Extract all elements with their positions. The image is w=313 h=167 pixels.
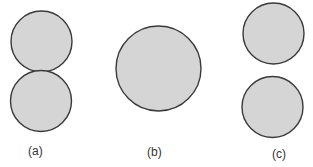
panel-a-label: (a) <box>28 145 43 157</box>
panel-c-circles <box>242 3 304 138</box>
circles-diagram <box>0 0 313 167</box>
panel-b-circle <box>116 26 201 111</box>
panel-b-label: (b) <box>147 146 162 158</box>
panel-a-circles <box>11 11 73 132</box>
panel-c-bottom-circle <box>242 77 303 138</box>
panel-b-circles <box>116 26 201 111</box>
panel-c-top-circle <box>243 3 304 64</box>
panel-a-bottom-circle <box>11 71 72 132</box>
panel-a-top-circle <box>11 11 72 72</box>
panel-c-label: (c) <box>272 148 286 160</box>
